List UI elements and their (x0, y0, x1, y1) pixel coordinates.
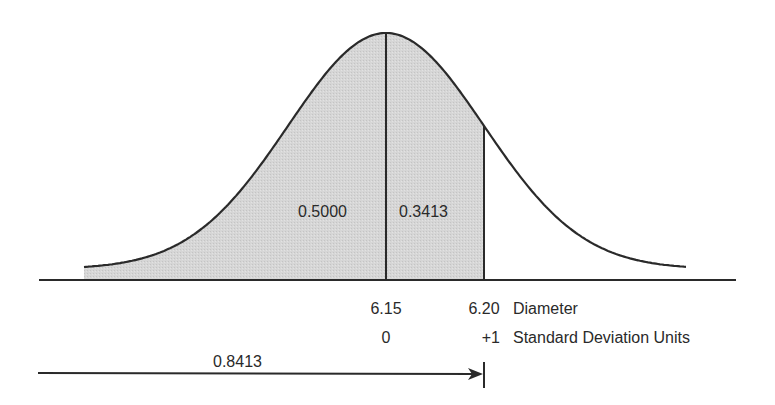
cumulative-area-label: 0.8413 (213, 353, 262, 371)
cumulative-arrow-shaft (38, 373, 474, 374)
area-label-mean-to-plus1: 0.3413 (399, 203, 448, 221)
tick-sd-plus1: +1 (440, 329, 500, 347)
tick-sd-zero: 0 (356, 329, 416, 347)
tick-diameter-plus1: 6.20 (454, 300, 514, 318)
area-label-left-of-mean: 0.5000 (298, 203, 347, 221)
axis-label-sd-units: Standard Deviation Units (513, 329, 690, 347)
tick-diameter-mean: 6.15 (356, 300, 416, 318)
shaded-area (84, 33, 484, 279)
axis-label-diameter: Diameter (513, 300, 578, 318)
